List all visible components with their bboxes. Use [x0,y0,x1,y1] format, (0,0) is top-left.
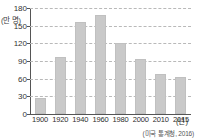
y-tick-label: 90 [18,57,27,66]
x-tick-label: 2000 [131,115,151,124]
bar-slot [171,8,191,114]
y-tick-label: 150 [14,21,27,30]
bar [135,59,146,114]
x-axis-ticks: 19001920194019601980200020102015 [30,115,191,124]
plot-area: 0306090120150180 [30,8,191,114]
bar-slot [111,8,131,114]
y-tick-label: 60 [18,74,27,83]
x-axis-unit-label: (년) [176,115,188,126]
y-tick-label: 120 [14,39,27,48]
x-tick-label: 1920 [50,115,70,124]
y-tick-label: 0 [23,110,27,119]
source-note: (미국 통계청, 2016) [143,128,194,138]
bar-series [30,8,191,114]
x-tick-label: 1980 [111,115,131,124]
bar [55,57,66,114]
bar-slot [50,8,70,114]
bar-slot [30,8,50,114]
bar [175,77,186,114]
bar [115,43,126,114]
bar [35,98,46,114]
y-tick-label: 30 [18,92,27,101]
bar-slot [131,8,151,114]
x-tick-label: 2010 [151,115,171,124]
bar [95,15,106,114]
bar-slot [70,8,90,114]
y-tick-label: 180 [14,4,27,13]
bar-slot [151,8,171,114]
x-tick-label: 1900 [30,115,50,124]
bar [75,22,86,114]
bar-slot [90,8,110,114]
bar-chart: (만 명) 0306090120150180 19001920194019601… [0,0,197,140]
x-tick-label: 1960 [90,115,110,124]
x-tick-label: 1940 [70,115,90,124]
bar [155,74,166,114]
